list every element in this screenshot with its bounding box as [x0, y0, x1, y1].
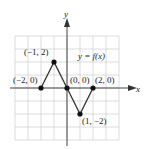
data-point: [64, 85, 69, 90]
function-graph: x y y = f(x) (−1, 2) (−2, 0) (0, 0) (2, …: [0, 0, 146, 149]
function-label: y = f(x): [77, 51, 105, 61]
x-axis-label: x: [135, 84, 140, 94]
point-label-1-neg2: (1, −2): [82, 116, 107, 126]
data-point: [38, 85, 43, 90]
y-axis-label: y: [63, 9, 68, 19]
x-axis: [10, 85, 137, 91]
point-label-0-0: (0, 0): [70, 75, 90, 85]
point-label-neg2-0: (−2, 0): [13, 75, 38, 85]
data-point: [51, 59, 56, 64]
data-point: [90, 85, 95, 90]
point-label-2-0: (2, 0): [95, 75, 115, 85]
y-axis-arrow-icon: [64, 18, 70, 27]
point-label-neg1-2: (−1, 2): [24, 47, 49, 57]
